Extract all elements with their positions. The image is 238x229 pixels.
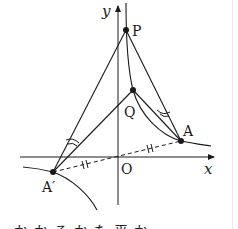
point-P: [123, 27, 129, 33]
segment-PA-prime: [53, 30, 126, 172]
geometry-diagram: P Q A A′ O x y: [0, 0, 238, 229]
point-A-prime: [50, 169, 56, 175]
label-y-axis: y: [101, 2, 111, 20]
label-x-axis: x: [204, 160, 213, 178]
segment-QA-prime: [53, 90, 133, 172]
label-P: P: [132, 23, 141, 39]
label-A-prime: A′: [41, 179, 55, 195]
label-Q: Q: [124, 104, 135, 120]
segment-QA: [133, 90, 181, 141]
label-A: A: [182, 123, 194, 139]
cropped-bottom-text: かかるかた平か: [14, 220, 154, 229]
equal-length-mark-left: [82, 160, 88, 169]
label-origin: O: [121, 161, 132, 177]
point-Q: [130, 87, 136, 93]
curve-left-branch: [23, 167, 97, 210]
